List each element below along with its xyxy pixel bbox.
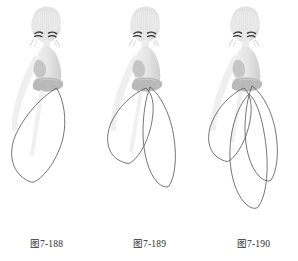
left-cheek-line [34, 40, 37, 47]
illustration-plate: 图7-188 [0, 0, 298, 261]
left-lash-line [129, 39, 133, 46]
figure-panel-7-189: 图7-189 [99, 0, 198, 261]
right-lash-line [255, 40, 259, 47]
right-lash-line [155, 40, 159, 47]
right-cheek-line [54, 41, 57, 48]
croquis-illustration-2 [99, 0, 198, 228]
left-lash-line [30, 39, 34, 46]
leg-hint-group [30, 90, 44, 156]
hip-shape [33, 77, 63, 91]
hip-shape [232, 77, 262, 91]
right-lash-line [56, 40, 60, 47]
croquis-illustration-3 [199, 0, 298, 228]
figure-caption-2: 图7-189 [99, 236, 198, 250]
leg-hint-group [129, 90, 143, 153]
figure-panel-7-190: 图7-190 [199, 0, 298, 261]
left-cheek-line [133, 40, 136, 47]
left-lash-line [229, 39, 233, 46]
hip-block-group [232, 77, 262, 91]
figure-panel-7-188: 图7-188 [0, 0, 99, 261]
left-cheek-line [233, 40, 236, 47]
leg-hint-group [230, 90, 243, 143]
leg-shape [230, 90, 243, 143]
leg-shape [30, 90, 44, 156]
right-cheek-line [153, 41, 156, 48]
right-petal-outline [245, 86, 277, 181]
hip-block-group [33, 77, 63, 91]
croquis-illustration-1 [0, 0, 99, 228]
figure-caption-1: 图7-188 [0, 236, 99, 250]
right-cheek-line [253, 41, 256, 48]
figure-caption-3: 图7-190 [199, 236, 298, 250]
leg-shape [129, 90, 143, 153]
